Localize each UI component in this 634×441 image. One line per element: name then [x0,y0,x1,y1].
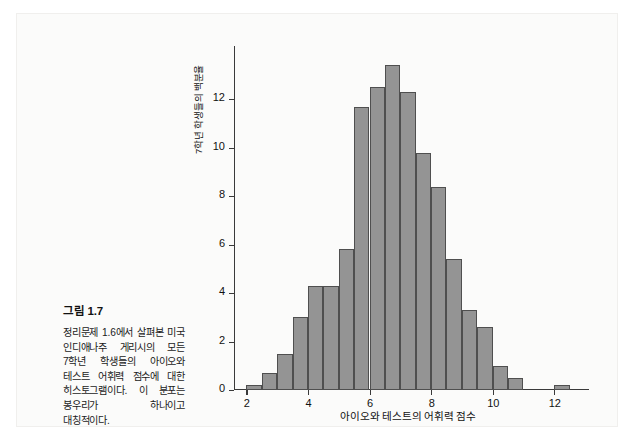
y-axis-tick-label: 2 [219,334,225,346]
histogram-bar [416,153,431,390]
y-axis-tick: 12 [229,99,234,100]
histogram-figure: 024681012 24681012 7학년 학생들의 백분율 아이오와 테스트… [193,36,623,426]
histogram-bar [508,378,523,390]
histogram-bar [370,87,385,390]
histogram-bar [277,354,292,390]
y-axis-tick: 8 [229,196,234,197]
histogram-bar [477,327,492,390]
histogram-bar [339,249,354,390]
histogram-bar [446,259,461,390]
x-axis-tick: 6 [370,390,371,395]
x-axis-tick: 4 [308,390,309,395]
figure-caption-title: 그림 1.7 [63,302,185,318]
y-axis-tick: 4 [229,293,234,294]
y-axis-tick-label: 12 [213,91,225,103]
x-axis-title: 아이오와 테스트의 어휘력 점수 [193,408,623,423]
y-axis-line [234,46,235,390]
y-axis-tick: 6 [229,245,234,246]
histogram-bar [400,92,415,390]
y-axis-tick: 0 [229,390,234,391]
y-axis-tick-label: 10 [213,140,225,152]
y-axis-tick: 10 [229,148,234,149]
y-axis-tick-label: 8 [219,188,225,200]
x-axis-tick: 12 [554,390,555,395]
histogram-bar [323,286,338,390]
histogram-bar [431,187,446,390]
y-axis-tick-label: 6 [219,237,225,249]
histogram-bar [262,373,277,390]
histogram-bar [354,107,369,390]
histogram-bar [493,366,508,390]
histogram-bar [554,385,569,390]
y-axis-tick: 2 [229,342,234,343]
x-axis-tick: 8 [431,390,432,395]
page-root: 그림 1.7 정리문제 1.6에서 살펴본 미국 인디애나주 게리시의 모든 7… [0,0,634,441]
y-axis-title: 7학년 학생들의 백분율 [191,65,205,154]
scanned-page-panel: 그림 1.7 정리문제 1.6에서 살펴본 미국 인디애나주 게리시의 모든 7… [17,14,617,426]
x-axis-tick: 2 [246,390,247,395]
plot-area: 024681012 24681012 [234,46,582,390]
histogram-bar [308,286,323,390]
histogram-bar [385,65,400,390]
x-axis-tick: 10 [493,390,494,395]
y-axis-tick-label: 0 [219,382,225,394]
y-axis-tick-label: 4 [219,285,225,297]
histogram-bar [462,310,477,390]
histogram-bar [246,385,261,390]
figure-caption: 그림 1.7 정리문제 1.6에서 살펴본 미국 인디애나주 게리시의 모든 7… [63,302,185,428]
figure-caption-body: 정리문제 1.6에서 살펴본 미국 인디애나주 게리시의 모든 7학년 학생들의… [63,326,185,428]
histogram-bar [293,317,308,390]
